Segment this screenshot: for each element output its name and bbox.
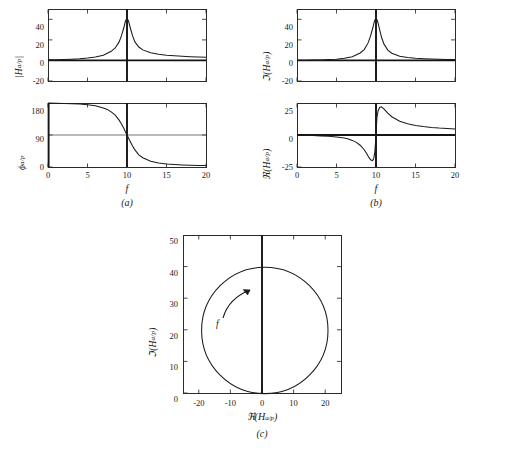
- panel-a-xtick-20: 20: [196, 170, 216, 180]
- panel-a-phase-ytick-180: 180: [16, 106, 44, 116]
- panel-b-imag: ℑ(Ha/p) 40 20 0 -20: [253, 0, 493, 100]
- panel-c-xtick-20: 20: [313, 398, 337, 408]
- panel-c-ytick-20: 20: [156, 331, 178, 341]
- panel-c-nyquist: ℑ(Ha/p) 50 40 30 20 10 0: [130, 222, 380, 455]
- panel-b-xlabel: f: [356, 183, 396, 194]
- panel-b-real: ℜ(Ha/p) 25 0 -25 0 5 10: [253, 100, 493, 200]
- panel-a-magnitude-ytick-20: 20: [22, 40, 44, 50]
- panel-b-imag-ytick-20: 20: [271, 40, 293, 50]
- panel-c-ylabel: ℑ(Ha/p): [147, 280, 158, 358]
- panel-b-xtick-0: 0: [287, 170, 307, 180]
- panel-a-phase-ytick-90: 90: [16, 134, 44, 144]
- panel-a-magnitude-ytick-neg20: -20: [16, 76, 44, 86]
- panel-b-xtick-20: 20: [445, 170, 465, 180]
- panel-c-caption: (c): [242, 428, 282, 439]
- panel-c-ytick-0: 0: [156, 394, 178, 404]
- panel-c-xtick-0: 0: [250, 398, 274, 408]
- panel-c-ytick-30: 30: [156, 299, 178, 309]
- panel-a-magnitude-plot: [48, 9, 228, 101]
- panel-b-real-ytick-25: 25: [265, 106, 293, 116]
- panel-a-magnitude-ytick-0: 0: [22, 58, 44, 68]
- panel-c-xlabel: ℜ(Ha/p): [237, 411, 287, 422]
- panel-b-caption: (b): [356, 197, 396, 208]
- panel-c-ytick-50: 50: [156, 236, 178, 246]
- panel-b-xtick-15: 15: [406, 170, 426, 180]
- panel-b-imag-plot: [297, 9, 477, 101]
- panel-a-xtick-5: 5: [78, 170, 98, 180]
- panel-a-xtick-0: 0: [38, 170, 58, 180]
- panel-a-xlabel: f: [107, 183, 147, 194]
- panel-b-real-ytick-0: 0: [265, 134, 293, 144]
- panel-b-imag-ytick-40: 40: [271, 22, 293, 32]
- panel-c-f-annotation: f: [216, 319, 220, 329]
- panel-b-imag-ytick-neg20: -20: [265, 76, 293, 86]
- panel-a-phase: ϕa/p 180 90 0: [0, 100, 230, 200]
- panel-c-ytick-10: 10: [156, 362, 178, 372]
- panel-c-xtick-10: 10: [282, 398, 306, 408]
- panel-a-xtick-15: 15: [157, 170, 177, 180]
- panel-a-magnitude: |Ha/p| 40 20 0 -20: [0, 0, 230, 100]
- panel-b-imag-ytick-0: 0: [271, 58, 293, 68]
- panel-c-plot: f: [183, 235, 373, 407]
- panel-a-xtick-10: 10: [117, 170, 137, 180]
- panel-c-xtick-neg20: -20: [187, 398, 211, 408]
- panel-b-xtick-10: 10: [366, 170, 386, 180]
- panel-c-ytick-40: 40: [156, 268, 178, 278]
- figure-root: |Ha/p| 40 20 0 -20: [0, 0, 507, 455]
- panel-a-caption: (a): [107, 197, 147, 208]
- panel-a-magnitude-ytick-40: 40: [22, 22, 44, 32]
- panel-b-xtick-5: 5: [327, 170, 347, 180]
- panel-c-xtick-neg10: -10: [218, 398, 242, 408]
